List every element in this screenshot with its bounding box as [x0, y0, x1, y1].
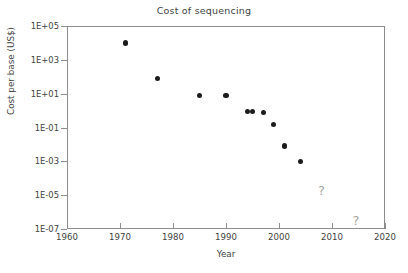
y-axis-label: Cost per base (US$) — [6, 9, 16, 133]
x-tick-mark — [279, 223, 280, 229]
y-tick-mark — [61, 26, 67, 27]
question-mark-annotation: ? — [352, 212, 359, 227]
question-mark-annotation: ? — [318, 183, 325, 198]
x-tick-label: 1960 — [44, 232, 90, 242]
x-tick-mark — [332, 223, 333, 229]
chart-title: Cost of sequencing — [0, 5, 408, 16]
x-tick-mark — [67, 223, 68, 229]
x-axis-label: Year — [67, 249, 385, 259]
x-tick-label: 2000 — [256, 232, 302, 242]
y-tick-mark — [61, 60, 67, 61]
x-tick-label: 1990 — [203, 232, 249, 242]
x-tick-label: 1970 — [97, 232, 143, 242]
y-tick-mark — [61, 195, 67, 196]
y-tick-mark — [61, 161, 67, 162]
y-tick-mark — [61, 94, 67, 95]
y-tick-label: 1E-03 — [0, 156, 59, 166]
x-tick-mark — [120, 223, 121, 229]
x-tick-mark — [385, 223, 386, 229]
plot-area — [67, 26, 385, 229]
x-tick-mark — [173, 223, 174, 229]
y-tick-mark — [61, 229, 67, 230]
x-tick-label: 2010 — [309, 232, 355, 242]
y-tick-mark — [61, 128, 67, 129]
x-tick-mark — [226, 223, 227, 229]
cost-of-sequencing-chart: Cost of sequencing 1E+051E+031E+011E-011… — [0, 0, 408, 273]
y-tick-label: 1E-05 — [0, 190, 59, 200]
x-tick-label: 2020 — [362, 232, 408, 242]
x-tick-label: 1980 — [150, 232, 196, 242]
